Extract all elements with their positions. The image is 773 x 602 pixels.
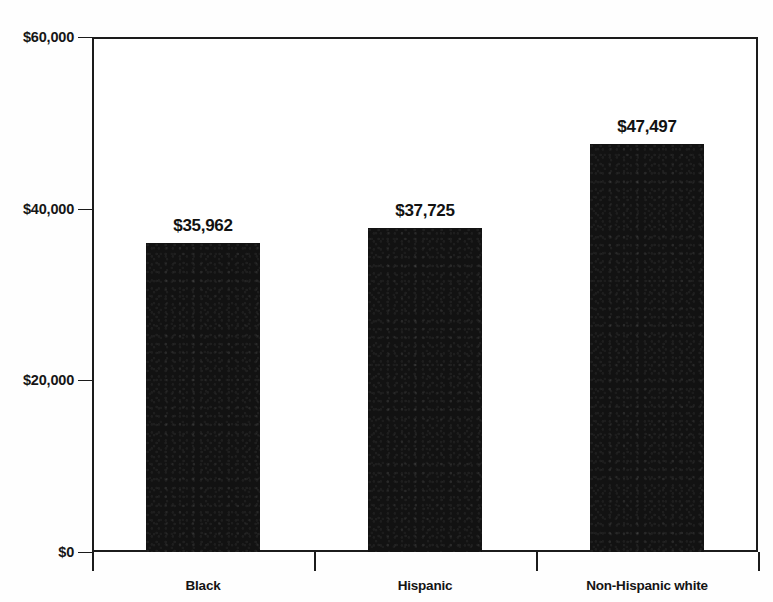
y-axis-label: $60,000 <box>23 29 74 45</box>
x-axis-label: Hispanic <box>335 578 515 593</box>
y-axis-label: $20,000 <box>23 372 74 388</box>
x-axis-label: Black <box>113 578 293 593</box>
x-axis-separator-tick <box>536 552 538 571</box>
chart-title-ghost <box>150 2 670 14</box>
bar <box>368 228 482 552</box>
bar <box>590 144 704 552</box>
y-axis-tick <box>78 380 92 381</box>
bar <box>146 243 260 552</box>
x-axis-separator-tick <box>92 552 94 571</box>
bar-value-label: $37,725 <box>345 201 505 221</box>
x-axis-separator-tick <box>314 552 316 571</box>
bar-value-label: $47,497 <box>567 117 727 137</box>
y-axis-tick <box>78 209 92 210</box>
y-axis-tick <box>78 37 92 38</box>
bar-chart-figure: $0$20,000$40,000$60,000 $35,962$37,725$4… <box>0 0 773 602</box>
y-axis-label: $40,000 <box>23 201 74 217</box>
y-axis-tick <box>78 552 92 553</box>
bar-value-label: $35,962 <box>123 216 283 236</box>
x-axis-label: Non-Hispanic white <box>557 578 737 593</box>
y-axis-label: $0 <box>58 544 74 560</box>
x-axis-separator-tick <box>758 552 760 571</box>
